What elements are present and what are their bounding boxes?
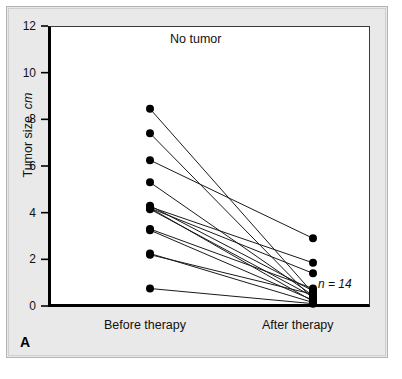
data-point-marker	[309, 290, 317, 298]
data-point-marker	[146, 226, 154, 234]
slope-line	[150, 209, 313, 296]
data-point-marker	[309, 300, 317, 308]
y-axis-tick-label: 4	[10, 207, 36, 219]
data-point-marker	[146, 105, 154, 113]
y-axis-title: Tumor size, cm	[21, 65, 35, 205]
data-point-marker	[146, 178, 154, 186]
data-point-marker	[146, 129, 154, 137]
data-point-marker	[146, 251, 154, 259]
chart-canvas	[0, 0, 402, 379]
data-point-marker	[146, 205, 154, 213]
y-axis-tick-label: 0	[10, 300, 36, 312]
data-point-marker	[309, 269, 317, 277]
y-axis-title-text: Tumor size,	[21, 109, 35, 177]
y-axis-tick-marks	[41, 26, 48, 306]
y-axis-tick-label: 12	[10, 20, 36, 32]
data-point-marker	[309, 259, 317, 267]
y-axis-tick-label: 2	[10, 253, 36, 265]
y-axis-title-units: cm	[21, 93, 35, 110]
slope-lines-group	[150, 109, 313, 304]
x-axis-label-after-therapy: After therapy	[262, 318, 334, 332]
sample-size-annotation: n = 14	[318, 277, 352, 291]
figure-root: 024681012 Tumor size, cm No tumor Before…	[0, 0, 402, 379]
slope-line	[150, 229, 313, 289]
x-axis-label-before-therapy: Before therapy	[104, 318, 186, 332]
chart-title: No tumor	[170, 32, 221, 46]
panel-letter: A	[20, 334, 30, 350]
data-point-marker	[146, 156, 154, 164]
data-point-marker	[146, 285, 154, 293]
data-point-marker	[309, 234, 317, 242]
slope-line	[150, 289, 313, 304]
